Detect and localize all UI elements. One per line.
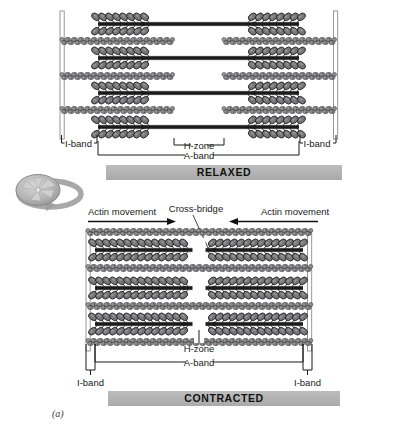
actin-filament bbox=[222, 72, 337, 79]
myosin-filament bbox=[90, 115, 307, 140]
arrow-actin-left bbox=[88, 218, 176, 225]
actin-filament bbox=[86, 228, 313, 235]
label-cross-bridge: Cross-bridge bbox=[169, 203, 223, 214]
rotate-3d-icon[interactable] bbox=[16, 175, 81, 212]
label-i-band-left-relaxed: I-band bbox=[65, 138, 92, 149]
sarcomere-figure: I-band I-band H-zone A-band RELAXED bbox=[0, 0, 398, 431]
relaxed-filaments bbox=[60, 12, 337, 140]
panel-contracted: Actin movement Actin movement Cross-brid… bbox=[77, 203, 340, 406]
myosin-filament bbox=[90, 12, 307, 37]
state-label-contracted: CONTRACTED bbox=[184, 392, 264, 404]
state-label-relaxed: RELAXED bbox=[197, 166, 251, 178]
panel-relaxed: I-band I-band H-zone A-band RELAXED bbox=[60, 11, 342, 180]
label-i-band-left-contracted: I-band bbox=[77, 377, 104, 388]
label-i-band-right-contracted: I-band bbox=[294, 377, 321, 388]
figure-caption: (a) bbox=[52, 408, 64, 420]
actin-filament bbox=[60, 106, 175, 113]
actin-filament bbox=[86, 302, 313, 309]
contracted-filaments bbox=[86, 228, 313, 345]
myosin-filament bbox=[90, 46, 307, 71]
actin-filament bbox=[222, 37, 337, 44]
label-i-band-right-relaxed: I-band bbox=[304, 138, 331, 149]
label-h-zone-contracted: H-zone bbox=[184, 343, 215, 354]
label-actin-movement-right: Actin movement bbox=[261, 206, 329, 217]
arrow-actin-right bbox=[229, 218, 318, 225]
label-a-band-contracted: A-band bbox=[184, 357, 215, 368]
actin-filament bbox=[60, 72, 175, 79]
myosin-filament bbox=[90, 81, 307, 106]
actin-filament bbox=[222, 106, 337, 113]
actin-filament bbox=[60, 37, 175, 44]
z-line-right-contracted bbox=[308, 231, 312, 351]
label-actin-movement-left: Actin movement bbox=[88, 206, 156, 217]
actin-filament bbox=[86, 264, 313, 271]
label-a-band-relaxed: A-band bbox=[184, 150, 215, 161]
